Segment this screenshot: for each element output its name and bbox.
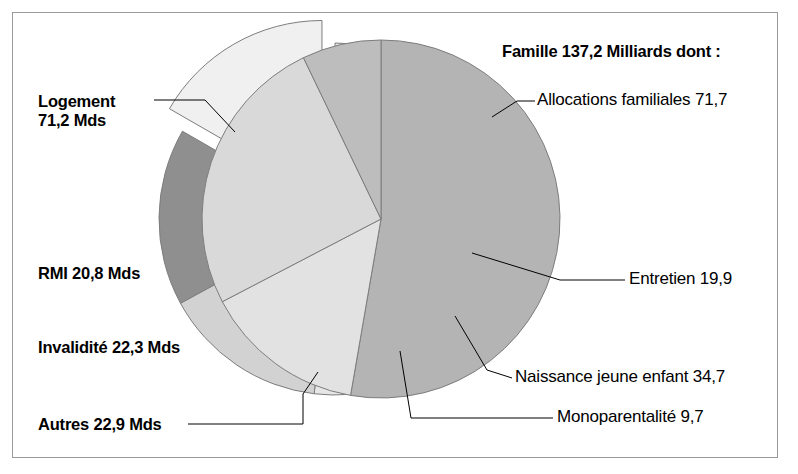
label-naissance-jeune-enfant: Naissance jeune enfant 34,7 bbox=[515, 367, 725, 387]
label-logement: Logement 71,2 Mds bbox=[38, 92, 115, 131]
label-monoparentalite: Monoparentalité 9,7 bbox=[557, 407, 703, 427]
right-pie-title: Famille 137,2 Milliards dont : bbox=[502, 42, 721, 61]
chart-canvas: Logement 71,2 Mds RMI 20,8 Mds Invalidit… bbox=[0, 0, 798, 474]
label-allocations-familiales: Allocations familiales 71,7 bbox=[537, 90, 727, 110]
pie-slice bbox=[351, 40, 560, 398]
label-entretien: Entretien 19,9 bbox=[629, 269, 732, 289]
label-rmi: RMI 20,8 Mds bbox=[38, 264, 140, 283]
right-pie bbox=[202, 40, 560, 398]
pie-charts-svg bbox=[0, 0, 798, 474]
label-logement-line1: Logement bbox=[38, 92, 115, 111]
label-logement-line2: 71,2 Mds bbox=[38, 111, 115, 130]
label-autres: Autres 22,9 Mds bbox=[38, 415, 162, 434]
label-invalidite: Invalidité 22,3 Mds bbox=[38, 338, 180, 357]
